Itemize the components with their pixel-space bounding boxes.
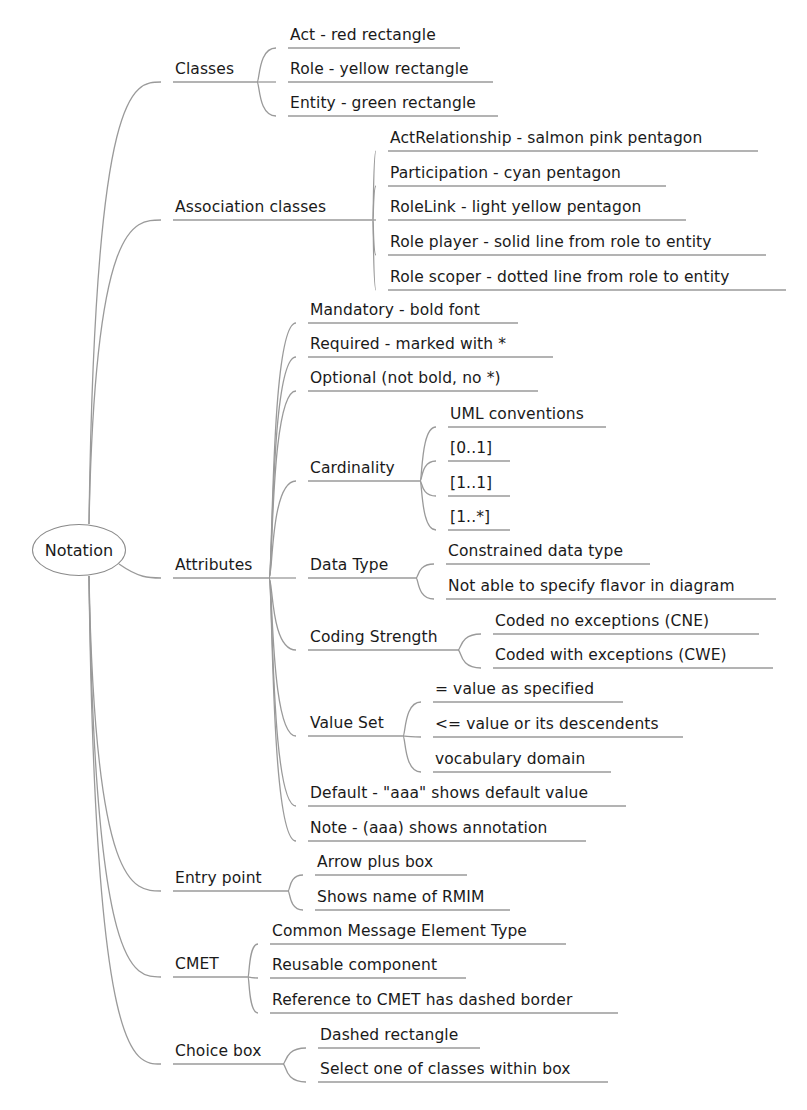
- node-entity-green-rectangle[interactable]: Entity - green rectangle: [290, 94, 476, 112]
- node-vocabulary-domain[interactable]: vocabulary domain: [435, 750, 585, 768]
- node-value-as-specified[interactable]: = value as specified: [435, 680, 594, 698]
- node-0-1[interactable]: [0..1]: [450, 439, 492, 457]
- node-select-one-of-classes-within-box[interactable]: Select one of classes within box: [320, 1060, 571, 1078]
- node-rolelink-light-yellow-pentagon[interactable]: RoleLink - light yellow pentagon: [390, 198, 641, 216]
- node-actrelationship-salmon-pink-pentagon[interactable]: ActRelationship - salmon pink pentagon: [390, 129, 702, 147]
- node-1-1[interactable]: [1..1]: [450, 474, 492, 492]
- node-optional-not-bold-no[interactable]: Optional (not bold, no *): [310, 369, 501, 387]
- node-role-scoper-dotted-line-from-role-to-entity[interactable]: Role scoper - dotted line from role to e…: [390, 268, 730, 286]
- node-attributes[interactable]: Attributes: [175, 556, 253, 574]
- node-mandatory-bold-font[interactable]: Mandatory - bold font: [310, 301, 480, 319]
- node-cmet[interactable]: CMET: [175, 955, 219, 973]
- node-coding-strength[interactable]: Coding Strength: [310, 628, 438, 646]
- node-entry-point[interactable]: Entry point: [175, 869, 262, 887]
- node-coded-with-exceptions-cwe[interactable]: Coded with exceptions (CWE): [495, 646, 727, 664]
- node-data-type[interactable]: Data Type: [310, 556, 388, 574]
- node-role-yellow-rectangle[interactable]: Role - yellow rectangle: [290, 60, 469, 78]
- node-uml-conventions[interactable]: UML conventions: [450, 405, 584, 423]
- node-value-or-its-descendents[interactable]: <= value or its descendents: [435, 715, 659, 733]
- node-role-player-solid-line-from-role-to-entity[interactable]: Role player - solid line from role to en…: [390, 233, 712, 251]
- node-value-set[interactable]: Value Set: [310, 714, 384, 732]
- node-shows-name-of-rmim[interactable]: Shows name of RMIM: [317, 888, 484, 906]
- node-dashed-rectangle[interactable]: Dashed rectangle: [320, 1026, 458, 1044]
- node-arrow-plus-box[interactable]: Arrow plus box: [317, 853, 433, 871]
- node-cardinality[interactable]: Cardinality: [310, 459, 395, 477]
- node-common-message-element-type[interactable]: Common Message Element Type: [272, 922, 527, 940]
- node-act-red-rectangle[interactable]: Act - red rectangle: [290, 26, 436, 44]
- node-reusable-component[interactable]: Reusable component: [272, 956, 437, 974]
- node-association-classes[interactable]: Association classes: [175, 198, 326, 216]
- node-default-aaa-shows-default-value[interactable]: Default - "aaa" shows default value: [310, 784, 588, 802]
- root-label: Notation: [45, 541, 113, 560]
- node-classes[interactable]: Classes: [175, 60, 234, 78]
- node-reference-to-cmet-has-dashed-border[interactable]: Reference to CMET has dashed border: [272, 991, 572, 1009]
- node-1[interactable]: [1..*]: [450, 508, 490, 526]
- node-choice-box[interactable]: Choice box: [175, 1042, 261, 1060]
- node-required-marked-with[interactable]: Required - marked with *: [310, 335, 506, 353]
- node-constrained-data-type[interactable]: Constrained data type: [448, 542, 623, 560]
- node-coded-no-exceptions-cne[interactable]: Coded no exceptions (CNE): [495, 612, 709, 630]
- root-node-notation[interactable]: Notation: [32, 524, 126, 576]
- node-participation-cyan-pentagon[interactable]: Participation - cyan pentagon: [390, 164, 621, 182]
- node-not-able-to-specify-flavor-in-diagram[interactable]: Not able to specify flavor in diagram: [448, 577, 735, 595]
- node-note-aaa-shows-annotation[interactable]: Note - (aaa) shows annotation: [310, 819, 548, 837]
